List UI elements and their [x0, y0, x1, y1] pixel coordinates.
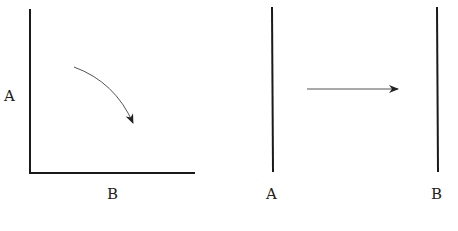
diagram-canvas [0, 0, 458, 231]
curved-arrow-icon [74, 67, 133, 123]
left-x-label: B [107, 187, 118, 202]
left-y-label: A [4, 89, 15, 104]
line-b [437, 7, 438, 172]
right-b-label: B [431, 187, 442, 202]
line-a [272, 7, 273, 172]
right-a-label: A [266, 187, 277, 202]
